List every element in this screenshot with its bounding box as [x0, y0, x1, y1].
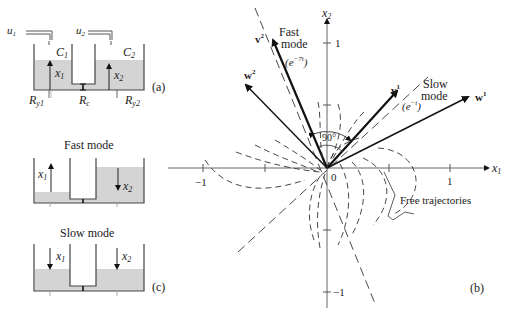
svg-text:w2: w2: [244, 68, 256, 81]
svg-text:C1: C1: [56, 45, 68, 60]
svg-text:x2: x2: [321, 6, 331, 21]
svg-text:Rc: Rc: [78, 93, 90, 108]
svg-text:Ry1: Ry1: [28, 93, 44, 108]
panel-slow-mode: Slow mode x1 x2 (c): [34, 226, 165, 296]
slow-mode-label-line2: mode: [421, 89, 448, 103]
two-tank-mode-diagram: u1 u2 C1 C2 x1 x2 Ry1 Rc Ry2 (a) Fast mo…: [0, 0, 505, 321]
fast-mode-label-line2: mode: [281, 37, 308, 51]
panel-b-label: (b): [470, 281, 484, 295]
svg-text:u1: u1: [7, 24, 16, 38]
svg-text:x1: x1: [491, 161, 501, 176]
free-trajectories-label: Free trajectories: [400, 194, 471, 206]
svg-text:x1: x1: [37, 167, 47, 182]
y-tick-neg1: −1: [333, 286, 345, 298]
y-tick-1: 1: [335, 37, 341, 49]
w1-vector: [327, 97, 468, 168]
svg-text:C2: C2: [123, 45, 135, 60]
w2-vector: [246, 85, 327, 168]
free-trajectories: [205, 102, 416, 248]
panel-b-phase-plane: −1 1 1 −1 0 x1 x2: [168, 6, 501, 308]
svg-text:Ry2: Ry2: [124, 93, 140, 108]
svg-text:v1: v1: [391, 83, 401, 96]
x-tick-1: 1: [447, 175, 453, 187]
origin-label: 0: [331, 171, 337, 183]
v1-vector: [327, 91, 397, 168]
x-tick-neg1: −1: [195, 176, 207, 188]
panel-a-tank-system: u1 u2 C1 C2 x1 x2 Ry1 Rc Ry2 (a): [7, 24, 165, 108]
svg-text:x1: x1: [55, 249, 65, 264]
w2-label: w: [244, 69, 252, 81]
fast-mode-rate: (e−7t): [285, 55, 308, 69]
angle-label: 90°: [322, 132, 336, 143]
panel-fast-mode: Fast mode x1 x2: [34, 138, 144, 207]
svg-text:x2: x2: [121, 249, 131, 264]
slow-mode-title: Slow mode: [60, 226, 114, 240]
svg-text:w1: w1: [475, 90, 487, 103]
slow-mode-rate: (e−t): [402, 99, 421, 113]
svg-text:v2: v2: [255, 32, 265, 45]
panel-c-label: (c): [152, 280, 165, 294]
panel-a-label: (a): [152, 80, 165, 94]
fast-mode-title: Fast mode: [64, 138, 114, 152]
svg-text:u2: u2: [76, 24, 86, 38]
w1-label: w: [475, 91, 483, 103]
tank1-liquid: [35, 60, 72, 90]
